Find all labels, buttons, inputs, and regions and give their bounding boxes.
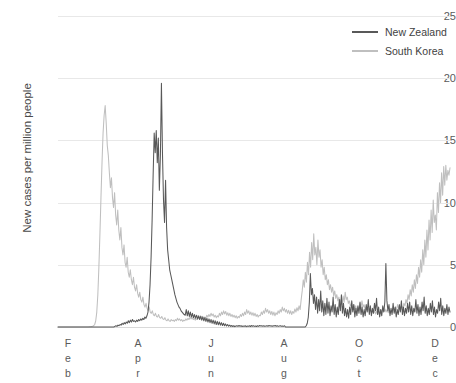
x-tick-letter: F: [57, 336, 79, 351]
x-tick-label-aug: A u g: [273, 336, 295, 381]
x-tick-label-feb: F e b: [57, 336, 79, 381]
x-tick-letter: g: [273, 366, 295, 381]
series-plot: [58, 16, 450, 327]
x-tick-letter: D: [424, 336, 446, 351]
legend-label-new-zealand: New Zealand: [385, 26, 447, 38]
legend-item-new-zealand: New Zealand: [352, 22, 447, 41]
x-tick-label-oct: O c t: [348, 336, 370, 381]
legend-item-south-korea: South Korea: [352, 41, 447, 60]
legend-swatch-new-zealand: [352, 31, 378, 33]
x-tick-letter: e: [424, 351, 446, 366]
x-tick-letter: O: [348, 336, 370, 351]
series-line-new-zealand: [58, 83, 450, 327]
x-tick-letter: p: [127, 351, 149, 366]
x-tick-label-apr: A p r: [127, 336, 149, 381]
x-tick-letter: c: [424, 366, 446, 381]
x-tick-letter: A: [127, 336, 149, 351]
x-tick-letter: e: [57, 351, 79, 366]
legend-swatch-south-korea: [352, 50, 378, 52]
x-tick-letter: A: [273, 336, 295, 351]
plot-area: [58, 16, 450, 327]
gridline-0: [58, 327, 450, 328]
x-tick-label-jun: J u n: [200, 336, 222, 381]
x-tick-letter: u: [273, 351, 295, 366]
x-tick-letter: b: [57, 366, 79, 381]
x-tick-letter: c: [348, 351, 370, 366]
x-tick-letter: r: [127, 366, 149, 381]
chart-container: New cases per million people 25 20 15 10…: [0, 0, 456, 383]
y-axis-title: New cases per million people: [21, 58, 37, 258]
x-tick-label-dec: D e c: [424, 336, 446, 381]
series-line-south-korea: [58, 106, 450, 327]
x-tick-letter: u: [200, 351, 222, 366]
chart-legend: New Zealand South Korea: [352, 22, 447, 60]
x-tick-letter: J: [200, 336, 222, 351]
legend-label-south-korea: South Korea: [385, 45, 443, 57]
x-tick-letter: n: [200, 366, 222, 381]
x-tick-letter: t: [348, 366, 370, 381]
